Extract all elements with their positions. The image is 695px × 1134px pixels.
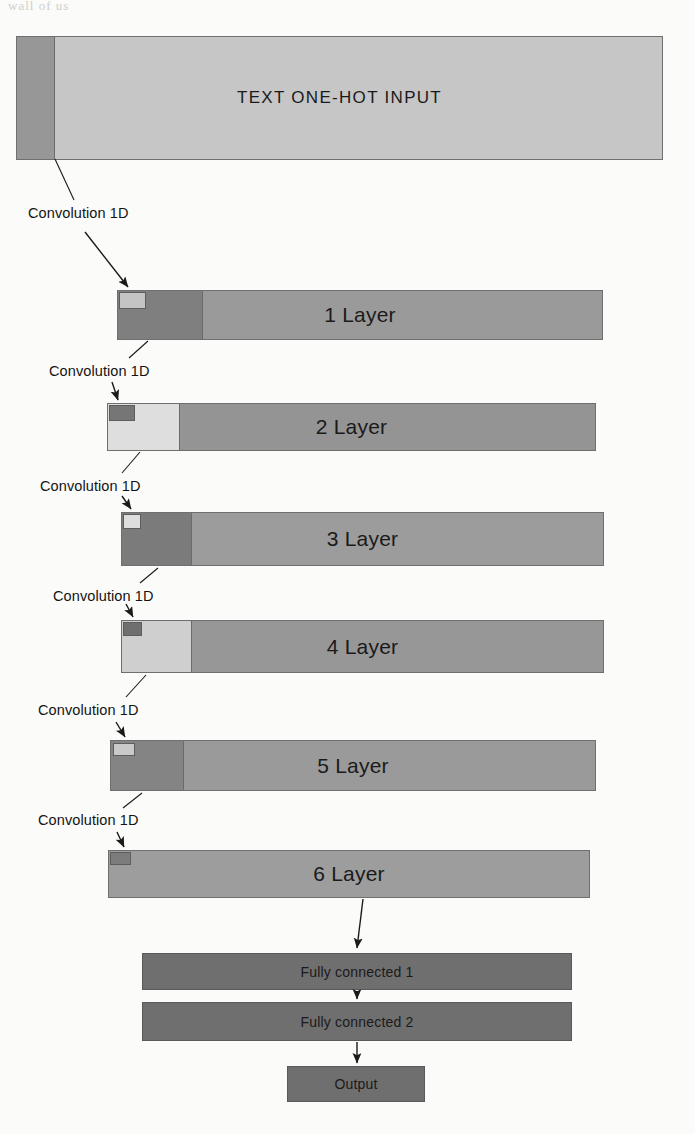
layer-5-kernel-cell [113, 743, 135, 756]
conv-label-4: Convolution 1D [53, 588, 154, 604]
arrow-layer6-to-fc1 [357, 899, 363, 948]
arrow-conv-5 [116, 722, 125, 737]
fully-connected-2-block: Fully connected 2 [142, 1002, 572, 1041]
layer-5-block: 5 Layer [110, 740, 596, 791]
conv-label-2: Convolution 1D [49, 363, 150, 379]
leader-line-layer-5 [123, 793, 142, 808]
layer-4-kernel-cell [123, 622, 142, 636]
arrow-conv-1 [85, 232, 128, 287]
layer-2-kernel-cell [109, 405, 135, 421]
arrow-conv-4 [126, 604, 133, 617]
output-label: Output [334, 1076, 377, 1092]
leader-line-layer-1 [129, 341, 148, 358]
conv-label-6: Convolution 1D [38, 812, 139, 828]
layer-1-kernel-cell [119, 292, 146, 309]
input-receptive-field-segment [17, 37, 55, 159]
fully-connected-1-block: Fully connected 1 [142, 953, 572, 990]
leader-line-input [55, 159, 74, 200]
layer-4-block: 4 Layer [121, 620, 604, 673]
output-block: Output [287, 1066, 425, 1102]
layer-1-block: 1 Layer [117, 290, 603, 340]
leader-line-layer-4 [126, 675, 146, 697]
arrow-conv-6 [117, 832, 124, 847]
arrow-conv-2 [112, 382, 118, 400]
fully-connected-2-label: Fully connected 2 [300, 1014, 413, 1030]
layer-1-label: 1 Layer [324, 303, 395, 327]
fully-connected-1-label: Fully connected 1 [300, 964, 413, 980]
text-one-hot-input-block: TEXT ONE-HOT INPUT [16, 36, 663, 160]
layer-3-block: 3 Layer [121, 512, 604, 566]
arrow-conv-3 [122, 496, 131, 509]
layer-3-label: 3 Layer [327, 527, 398, 551]
scan-bleed-text: wall of us [8, 0, 69, 14]
conv-label-3: Convolution 1D [40, 478, 141, 494]
layer-2-label: 2 Layer [316, 415, 387, 439]
layer-3-kernel-cell [123, 514, 141, 529]
layer-4-label: 4 Layer [327, 635, 398, 659]
leader-line-layer-2 [122, 452, 140, 473]
layer-2-block: 2 Layer [107, 403, 596, 451]
input-block-label: TEXT ONE-HOT INPUT [237, 88, 442, 108]
diagram-canvas: wall of us TEXT ONE-HOT INPUT 1 Layer 2 … [0, 0, 695, 1134]
conv-label-1: Convolution 1D [28, 205, 129, 221]
layer-6-kernel-cell [110, 852, 131, 865]
layer-6-block: 6 Layer [108, 850, 590, 898]
layer-5-label: 5 Layer [317, 754, 388, 778]
leader-line-layer-3 [140, 568, 158, 583]
layer-6-label: 6 Layer [313, 862, 384, 886]
conv-label-5: Convolution 1D [38, 702, 139, 718]
